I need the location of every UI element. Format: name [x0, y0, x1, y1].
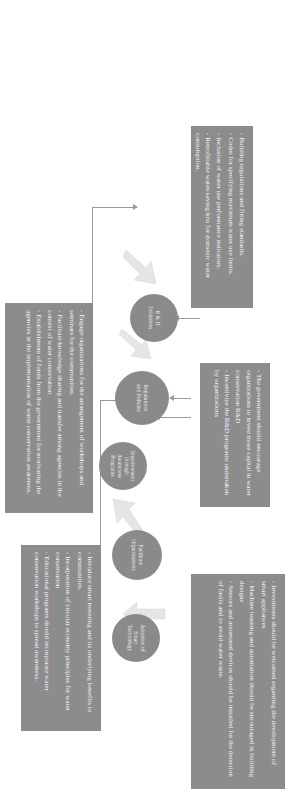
node-label-line: Initiatives: [147, 297, 154, 339]
detail-box-improvement: - Introduce smart metering and its under…: [21, 545, 101, 731]
node-label-line: through: [123, 445, 130, 487]
bullet: - Inclusion of water use performance ind…: [214, 133, 224, 301]
node-label-line: Improvement: [130, 445, 137, 487]
flow-arrow-regulations-to-rnd: [123, 248, 159, 290]
bullet: - Building regulations and fitting stand…: [237, 133, 247, 301]
bullet: - Educational programs should incorporat…: [31, 552, 52, 724]
node-facilitate-organizations[interactable]: Facilitate Organizations: [112, 530, 162, 580]
node-label-line: and Policies: [135, 374, 142, 422]
node-label-line: Programs: [110, 445, 117, 487]
connector-facilitate-h: [92, 207, 93, 304]
node-label-line: Organizations: [130, 533, 137, 577]
bullet: - Facilitate knowledge sharing and trans…: [45, 310, 66, 506]
bullet: - Retrofittable water-saving kits for do…: [193, 133, 214, 301]
detail-box-regulations: - Building regulations and fitting stand…: [191, 126, 253, 308]
node-label-line: Facilitate: [137, 533, 144, 577]
bullet: - Introduce smart metering and its under…: [74, 552, 95, 724]
connector-arrowhead: [169, 395, 174, 401]
connector-rnd: [178, 318, 200, 319]
node-label-line: Awareness: [116, 445, 123, 487]
node-label-line: Regulations: [142, 374, 149, 422]
detail-box-facilitate: - Engage organizations for the arrangeme…: [5, 303, 93, 513]
bullet: - Incentivize the R&D programs undertake…: [212, 370, 233, 500]
connector-regulations: [173, 398, 191, 399]
bullet: - Machine learning and automation should…: [237, 581, 258, 782]
diagram-canvas: - Building regulations and fitting stand…: [0, 0, 293, 799]
node-rnd-initiatives[interactable]: R & D Initiatives: [130, 294, 178, 342]
bullet: - Establishment of funds from the govern…: [23, 310, 44, 506]
connector-arrowhead: [133, 204, 138, 210]
node-label-line: Adoption of: [139, 617, 146, 659]
bullet: - Investments should be welcomed regardi…: [258, 581, 279, 782]
detail-box-rnd: - The government should encourage organi…: [200, 363, 270, 507]
node-label-line: R & D: [154, 297, 161, 339]
node-label-line: Technology: [126, 617, 133, 659]
bullet: - Incorporation of circular economy prin…: [53, 552, 74, 724]
bullet: - The government should encourage organi…: [233, 370, 264, 500]
detail-box-adoption: - Investments should be welcomed regardi…: [191, 574, 285, 789]
bullet: - Engage organizations for the arrangeme…: [66, 310, 87, 506]
bullet: - Sensors and automated devices should b…: [215, 581, 236, 782]
connector-adoption: [159, 417, 191, 418]
connector-facilitate-v: [92, 207, 133, 208]
node-improvement-through-awareness-programs[interactable]: Improvement through Awareness Programs: [99, 442, 147, 490]
node-regulations-and-policies[interactable]: Regulations and Policies: [115, 371, 169, 425]
bullet: - Codes for specifying maximum water use…: [225, 133, 235, 301]
node-adoption-of-smart-technology[interactable]: Adoption of Smart Technology: [112, 614, 160, 662]
node-label-line: Smart: [133, 617, 140, 659]
